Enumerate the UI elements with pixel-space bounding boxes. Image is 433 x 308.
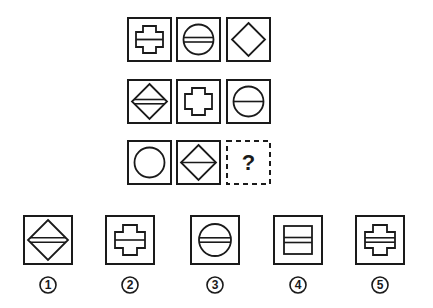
option-5-cross-double-line[interactable]: [355, 215, 405, 265]
option-3-label[interactable]: 3: [205, 275, 225, 295]
grid-cell-r3c1-circle: [127, 140, 172, 185]
option-3-circle-double-line[interactable]: [190, 215, 240, 265]
grid-cell-r3c2-diamond-single-line: [176, 140, 221, 185]
circle-icon: [190, 215, 240, 265]
option-5-label[interactable]: 5: [370, 275, 390, 295]
option-2-label[interactable]: 2: [120, 275, 140, 295]
circle-icon: [226, 79, 271, 124]
cross-icon: [105, 215, 155, 265]
circle-icon: [127, 140, 172, 185]
diamond-icon: [127, 79, 172, 124]
option-1-label[interactable]: 1: [38, 275, 58, 295]
diamond-icon: [176, 140, 221, 185]
diamond-icon: [226, 17, 271, 62]
option-4-label[interactable]: 4: [288, 275, 308, 295]
cross-icon: [127, 17, 172, 62]
grid-cell-r2c2-cross: [176, 79, 221, 124]
option-1-diamond-double-line[interactable]: [23, 215, 73, 265]
grid-cell-r1c1-cross-single-line: [127, 17, 172, 62]
cross-icon: [176, 79, 221, 124]
rectangle-icon: [273, 215, 323, 265]
grid-cell-r2c3-circle-single-line: [226, 79, 271, 124]
circle-icon: [176, 17, 221, 62]
question-mark: ?: [226, 140, 271, 185]
grid-cell-r3c3-unknown: ?: [226, 140, 271, 185]
option-4-rectangle-double-line[interactable]: [273, 215, 323, 265]
grid-cell-r1c3-diamond: [226, 17, 271, 62]
diamond-icon: [23, 215, 73, 265]
option-2-cross-single-line[interactable]: [105, 215, 155, 265]
grid-cell-r2c1-diamond-double-line: [127, 79, 172, 124]
cross-icon: [355, 215, 405, 265]
grid-cell-r1c2-circle-double-line: [176, 17, 221, 62]
